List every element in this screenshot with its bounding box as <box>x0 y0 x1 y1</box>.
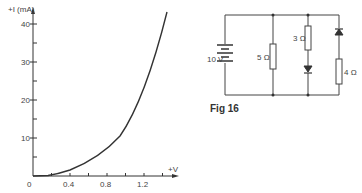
x-tick-label-1.2: 1.2 <box>137 180 149 189</box>
resistor-3-ohm-label: 3 Ω <box>293 34 306 43</box>
battery-label: 10 V <box>207 55 224 64</box>
y-tick-label-10: 10 <box>21 134 30 143</box>
x-tick-label-0.8: 0.8 <box>100 180 112 189</box>
resistor-5-ohm-icon <box>270 44 276 69</box>
resistor-5-ohm-label: 5 Ω <box>257 53 270 62</box>
resistor-4-ohm-label: 4 Ω <box>344 68 357 77</box>
origin-label: 0 <box>27 180 32 189</box>
x-tick-label-0.4: 0.4 <box>63 180 75 189</box>
y-tick-label-20: 20 <box>21 96 30 105</box>
figure-canvas: +I (mA) +V 0 0.4 0.8 1.2 10 20 30 40 <box>0 0 362 193</box>
diode-down-icon <box>304 66 312 73</box>
x-axis-arrow-icon <box>172 174 179 178</box>
y-tick-label-30: 30 <box>21 58 30 67</box>
resistor-4-ohm-icon <box>336 59 342 84</box>
figure-caption: Fig 16 <box>210 103 239 114</box>
diode-up-icon <box>335 29 343 35</box>
x-axis-label: +V <box>168 165 179 174</box>
junction-dots <box>272 14 310 97</box>
resistor-3-ohm-icon <box>305 26 311 50</box>
y-axis-label: +I (mA) <box>8 5 35 14</box>
iv-curve <box>33 12 167 176</box>
y-tick-label-40: 40 <box>21 20 30 29</box>
iv-graph: +I (mA) +V 0 0.4 0.8 1.2 10 20 30 40 <box>8 5 179 189</box>
circuit-diagram <box>217 14 343 97</box>
